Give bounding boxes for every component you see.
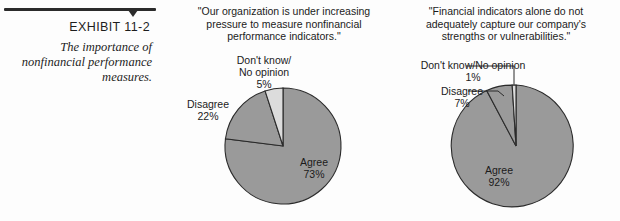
slice-label-dont-know-text: Don't know/No opinion [390,59,556,71]
exhibit-caption-text: The importance of nonfinancial performan… [0,40,172,85]
slice-label-agree: Agree 73% [278,156,350,180]
slice-label-disagree-text: Disagree [410,85,514,97]
slice-label-agree: Agree 92% [462,164,536,188]
exhibit-number: EXHIBIT 11-2 [0,20,172,34]
slice-value-dont-know: 1% [390,71,556,83]
slice-value-disagree: 7% [410,97,514,109]
slice-label-dont-know-line-2: No opinion [204,66,324,78]
exhibit-rule-marker-icon [4,4,162,18]
slice-label-dont-know: Don't know/No opinion 1% [390,59,556,83]
pie-chart-financial-indicators: "Financial indicators alone do not adequ… [392,0,620,221]
slice-value-dont-know: 5% [204,78,324,90]
slice-label-dont-know-line-1: Don't know/ [204,54,324,66]
exhibit-caption-line-3: measures. [0,70,152,85]
slice-label-disagree: Disagree 22% [164,98,252,122]
exhibit-triangle-icon [128,10,138,17]
slice-label-agree-text: Agree [462,164,536,176]
exhibit-caption-line-1: The importance of [0,40,152,55]
slice-label-agree-text: Agree [278,156,350,168]
slice-value-agree: 73% [278,168,350,180]
exhibit-figure: EXHIBIT 11-2 The importance of nonfinanc… [0,0,620,221]
exhibit-caption-line-2: nonfinancial performance [0,55,152,70]
slice-value-agree: 92% [462,176,536,188]
slice-label-disagree-text: Disagree [164,98,252,110]
exhibit-caption-block: EXHIBIT 11-2 The importance of nonfinanc… [0,4,172,85]
slice-label-disagree: Disagree 7% [410,85,514,109]
pie-chart-pressure: "Our organization is under increasing pr… [178,0,390,221]
slice-label-dont-know: Don't know/ No opinion 5% [204,54,324,90]
slice-value-disagree: 22% [164,110,252,122]
